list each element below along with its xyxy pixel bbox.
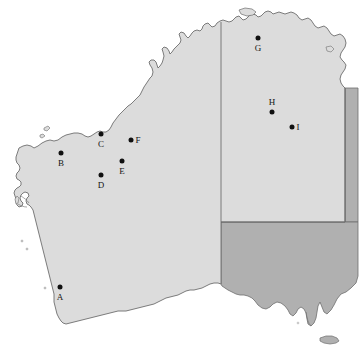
map-marker-dot-c[interactable]	[99, 132, 104, 137]
map-marker-label-i: I	[297, 123, 300, 132]
island-offshore-west-small-2	[26, 248, 28, 250]
map-marker-label-g: G	[255, 44, 262, 53]
map-marker-dot-i[interactable]	[290, 125, 295, 130]
map-marker-dot-f[interactable]	[129, 138, 134, 143]
island-offshore-northwest-1	[44, 126, 50, 131]
map-marker-dot-h[interactable]	[270, 110, 275, 115]
map-marker-label-f: F	[136, 136, 141, 145]
island-kangaroo	[320, 336, 339, 344]
island-offshore-northwest-2	[40, 134, 45, 138]
region-south-australia	[221, 222, 358, 326]
map-marker-dot-a[interactable]	[58, 285, 63, 290]
island-rottnest	[44, 287, 46, 289]
map-marker-label-e: E	[119, 167, 125, 176]
map-marker-dot-b[interactable]	[59, 151, 64, 156]
island-offshore-sa-small	[297, 322, 299, 324]
region-queensland-strip	[345, 88, 358, 222]
map-marker-label-c: C	[98, 140, 104, 149]
map-marker-label-d: D	[98, 181, 105, 190]
map-marker-dot-d[interactable]	[99, 173, 104, 178]
island-melville	[239, 8, 256, 16]
map-marker-label-a: A	[57, 293, 64, 302]
map-marker-dot-e[interactable]	[120, 159, 125, 164]
map-marker-label-b: B	[58, 159, 64, 168]
australia-map-graphic	[0, 0, 363, 360]
map-marker-dot-g[interactable]	[256, 36, 261, 41]
map-figure: ABCDEFGHI	[0, 0, 363, 360]
island-offshore-west-small-1	[21, 240, 23, 242]
map-marker-label-h: H	[269, 98, 276, 107]
